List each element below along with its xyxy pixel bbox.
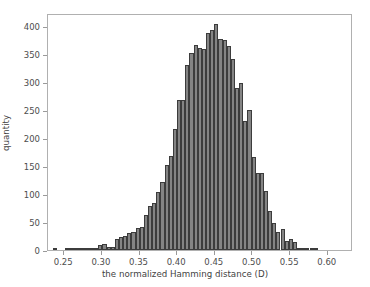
x-tick-label: 0.30	[91, 258, 110, 267]
y-tick-mark	[43, 111, 47, 112]
y-tick-label: 150	[0, 163, 40, 172]
x-tick-label: 0.45	[204, 258, 223, 267]
histogram-bars	[48, 15, 351, 250]
y-tick-mark	[43, 251, 47, 252]
x-tick-mark	[139, 251, 140, 255]
x-tick-label: 0.60	[317, 258, 336, 267]
x-tick-label: 0.25	[54, 258, 73, 267]
y-tick-mark	[43, 139, 47, 140]
y-tick-mark	[43, 195, 47, 196]
x-tick-mark	[214, 251, 215, 255]
histogram-bar	[53, 248, 57, 250]
x-tick-label: 0.55	[280, 258, 299, 267]
y-tick-label: 100	[0, 191, 40, 200]
x-tick-mark	[63, 251, 64, 255]
y-tick-mark	[43, 223, 47, 224]
y-axis-title: quantity	[2, 115, 11, 151]
x-tick-label: 0.40	[167, 258, 186, 267]
x-tick-mark	[176, 251, 177, 255]
x-tick-label: 0.35	[129, 258, 148, 267]
x-tick-label: 0.50	[242, 258, 261, 267]
x-tick-mark	[289, 251, 290, 255]
plot-area	[47, 14, 352, 251]
y-tick-mark	[43, 27, 47, 28]
y-tick-label: 0	[0, 247, 40, 256]
y-tick-mark	[43, 55, 47, 56]
y-tick-label: 50	[0, 219, 40, 228]
x-tick-mark	[327, 251, 328, 255]
histogram-bar	[314, 248, 318, 250]
y-tick-mark	[43, 167, 47, 168]
histogram-figure: 050100150200250300350400 0.250.300.350.4…	[0, 0, 370, 287]
x-axis-title: the normalized Hamming distance (D)	[0, 270, 370, 279]
y-tick-mark	[43, 83, 47, 84]
y-tick-label: 350	[0, 51, 40, 60]
x-tick-mark	[251, 251, 252, 255]
x-tick-mark	[101, 251, 102, 255]
y-tick-label: 400	[0, 23, 40, 32]
y-tick-label: 300	[0, 79, 40, 88]
